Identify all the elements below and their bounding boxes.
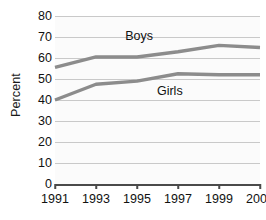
x-axis-ticks: [55, 184, 260, 192]
series-lines: [55, 16, 260, 184]
x-tick-label: 1997: [164, 192, 192, 206]
series-line-girls: [55, 74, 260, 100]
x-tick: [54, 184, 56, 189]
y-tick-label: 60: [38, 51, 52, 65]
y-tick-label: 20: [38, 135, 52, 149]
x-tick: [218, 184, 220, 189]
plot-area: BoysGirls: [55, 16, 260, 184]
y-tick-label: 0: [45, 177, 52, 191]
y-axis-title-text: Percent: [9, 73, 23, 117]
y-tick-label: 50: [38, 72, 52, 86]
x-tick: [136, 184, 138, 189]
y-tick-label: 80: [38, 9, 52, 23]
line-chart: Percent 01020304050607080 BoysGirls 1991…: [0, 0, 266, 220]
x-tick-label: 1993: [82, 192, 110, 206]
x-axis-tick-labels: 199119931995199719992001: [55, 192, 260, 212]
y-tick-label: 30: [38, 114, 52, 128]
series-line-boys: [55, 45, 260, 67]
x-tick-label: 1999: [205, 192, 233, 206]
y-axis-tick-labels: 01020304050607080: [22, 16, 52, 184]
y-tick-label: 70: [38, 30, 52, 44]
x-tick-label: 1995: [123, 192, 151, 206]
x-tick: [259, 184, 261, 189]
x-tick-label: 2001: [246, 192, 266, 206]
y-tick-label: 10: [38, 156, 52, 170]
y-tick-label: 40: [38, 93, 52, 107]
x-tick-label: 1991: [41, 192, 69, 206]
x-tick: [95, 184, 97, 189]
x-tick: [177, 184, 179, 189]
